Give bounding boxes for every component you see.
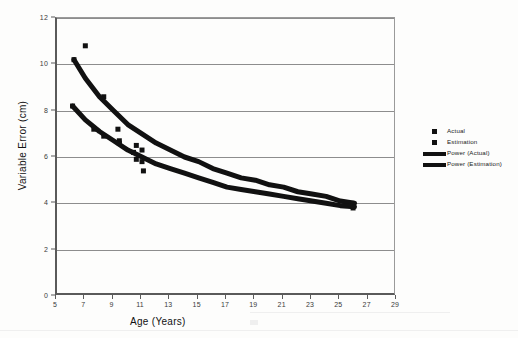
x-tick-mark-25: [338, 295, 339, 299]
data-point: [141, 168, 146, 173]
y-tick-mark-12: [51, 17, 55, 18]
y-tick-label-12: 12: [28, 14, 48, 21]
chart-figure: 024681012 57911131517192123252729 Age (Y…: [0, 0, 518, 338]
x-axis-title: Age (Years): [130, 316, 186, 327]
legend-item-estimation: Estimation: [421, 137, 502, 148]
legend-bar-marker-icon: [421, 152, 447, 156]
x-tick-label-23: 23: [300, 301, 320, 308]
y-tick-mark-2: [51, 248, 55, 249]
data-point: [140, 148, 145, 153]
plot-data-layer: [57, 18, 397, 296]
y-tick-label-6: 6: [28, 153, 48, 160]
legend-key-shape: [432, 140, 437, 145]
x-tick-mark-13: [168, 295, 169, 299]
legend-label: Power (Estimation): [447, 161, 502, 167]
y-tick-label-2: 2: [28, 245, 48, 252]
x-tick-mark-23: [310, 295, 311, 299]
x-tick-mark-21: [282, 295, 283, 299]
data-point: [134, 143, 139, 148]
x-tick-mark-29: [395, 295, 396, 299]
y-tick-label-10: 10: [28, 60, 48, 67]
x-tick-mark-9: [112, 295, 113, 299]
plot-area: [55, 17, 395, 295]
y-axis-title: Variable Error (cm): [17, 76, 28, 216]
x-tick-mark-15: [197, 295, 198, 299]
legend-key-shape: [423, 163, 446, 167]
legend-square-marker-icon: [421, 140, 447, 145]
legend-square-marker-icon: [421, 129, 447, 134]
x-tick-label-13: 13: [158, 301, 178, 308]
scan-artifact: [0, 330, 518, 331]
x-tick-label-27: 27: [357, 301, 377, 308]
x-tick-mark-11: [140, 295, 141, 299]
y-tick-mark-10: [51, 63, 55, 64]
x-tick-label-11: 11: [130, 301, 150, 308]
y-tick-label-8: 8: [28, 106, 48, 113]
x-tick-mark-27: [367, 295, 368, 299]
x-tick-mark-7: [83, 295, 84, 299]
x-tick-mark-5: [55, 295, 56, 299]
x-tick-label-15: 15: [187, 301, 207, 308]
chart-legend: ActualEstimationPower (Actual)Power (Est…: [421, 126, 502, 170]
legend-label: Estimation: [447, 139, 477, 145]
x-tick-mark-17: [225, 295, 226, 299]
y-tick-mark-6: [51, 156, 55, 157]
legend-label: Actual: [447, 128, 465, 134]
y-tick-mark-8: [51, 109, 55, 110]
data-point: [83, 43, 88, 48]
x-tick-label-9: 9: [102, 301, 122, 308]
x-tick-label-19: 19: [243, 301, 263, 308]
legend-key-shape: [423, 152, 446, 156]
x-tick-label-17: 17: [215, 301, 235, 308]
x-tick-label-5: 5: [45, 301, 65, 308]
y-tick-label-4: 4: [28, 199, 48, 206]
legend-key-shape: [432, 129, 437, 134]
legend-label: Power (Actual): [447, 150, 490, 156]
scan-artifact: [250, 312, 450, 313]
legend-item-actual: Actual: [421, 126, 502, 137]
y-tick-label-0: 0: [28, 292, 48, 299]
x-tick-mark-19: [253, 295, 254, 299]
x-tick-label-25: 25: [328, 301, 348, 308]
data-point: [115, 127, 120, 132]
y-tick-mark-4: [51, 202, 55, 203]
legend-item-power-actual: Power (Actual): [421, 148, 502, 159]
legend-item-power-estimation: Power (Estimation): [421, 159, 502, 170]
scan-artifact: [250, 320, 258, 325]
x-tick-label-7: 7: [73, 301, 93, 308]
x-tick-label-21: 21: [272, 301, 292, 308]
legend-bar-marker-icon: [421, 163, 447, 167]
x-tick-label-29: 29: [385, 301, 405, 308]
